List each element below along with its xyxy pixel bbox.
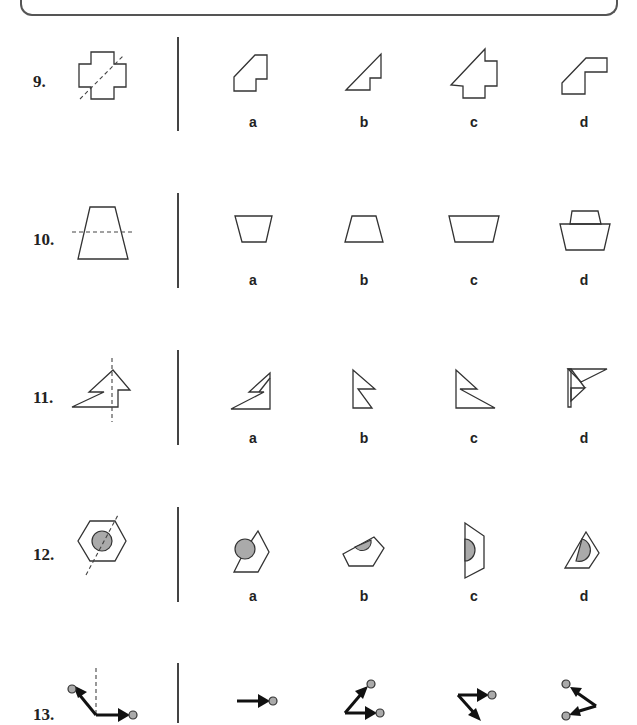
q9-option-d-label[interactable]: d bbox=[574, 114, 594, 130]
q12-option-a-label[interactable]: a bbox=[243, 588, 263, 604]
q12-option-a-shape bbox=[234, 525, 274, 575]
q11-option-d-label[interactable]: d bbox=[574, 430, 594, 446]
q10-option-a-shape bbox=[235, 216, 275, 246]
q13-option-b-shape bbox=[342, 680, 387, 725]
q11-option-a-label[interactable]: a bbox=[243, 430, 263, 446]
q9-option-d-shape bbox=[562, 58, 612, 98]
q13-option-a-shape bbox=[235, 690, 280, 710]
q9-option-b-label[interactable]: b bbox=[354, 114, 374, 130]
q12-option-d-shape bbox=[565, 526, 605, 576]
q13-option-c-shape bbox=[456, 685, 501, 725]
q12-option-b-label[interactable]: b bbox=[354, 588, 374, 604]
question-13-figure bbox=[60, 665, 140, 725]
q10-option-d-label[interactable]: d bbox=[574, 272, 594, 288]
question-12-divider bbox=[177, 507, 179, 602]
header-box bbox=[20, 0, 618, 16]
q11-option-c-label[interactable]: c bbox=[464, 430, 484, 446]
q10-option-a-label[interactable]: a bbox=[243, 272, 263, 288]
q10-option-c-shape bbox=[449, 216, 501, 246]
question-12-figure bbox=[78, 520, 138, 580]
q12-option-d-label[interactable]: d bbox=[574, 588, 594, 604]
question-10-figure bbox=[70, 205, 140, 265]
q12-option-c-shape bbox=[464, 522, 494, 582]
q9-option-a-label[interactable]: a bbox=[243, 114, 263, 130]
question-13-number: 13. bbox=[33, 705, 54, 725]
question-10-number: 10. bbox=[33, 230, 54, 250]
q10-option-b-shape bbox=[345, 216, 385, 246]
question-10-divider bbox=[177, 193, 179, 288]
question-9-figure bbox=[78, 50, 138, 110]
q13-option-d-shape bbox=[560, 680, 605, 725]
q9-option-a-shape bbox=[234, 55, 274, 95]
q9-option-b-shape bbox=[346, 54, 386, 94]
q10-option-b-label[interactable]: b bbox=[354, 272, 374, 288]
question-9-number: 9. bbox=[33, 72, 46, 92]
q11-option-d-shape bbox=[567, 369, 612, 411]
question-12-number: 12. bbox=[33, 545, 54, 565]
q11-option-b-shape bbox=[352, 370, 382, 412]
question-9-divider bbox=[177, 37, 179, 131]
q12-option-c-label[interactable]: c bbox=[464, 588, 484, 604]
q10-option-d-shape bbox=[560, 211, 612, 256]
q11-option-a-shape bbox=[231, 373, 276, 413]
question-11-divider bbox=[177, 350, 179, 445]
q11-option-b-label[interactable]: b bbox=[354, 430, 374, 446]
question-11-number: 11. bbox=[33, 388, 53, 408]
question-11-figure bbox=[72, 355, 132, 425]
q9-option-c-shape bbox=[451, 49, 501, 99]
q11-option-c-shape bbox=[455, 370, 500, 412]
question-13-divider bbox=[177, 663, 179, 723]
q9-option-c-label[interactable]: c bbox=[464, 114, 484, 130]
q12-option-b-shape bbox=[343, 535, 388, 575]
q10-option-c-label[interactable]: c bbox=[464, 272, 484, 288]
